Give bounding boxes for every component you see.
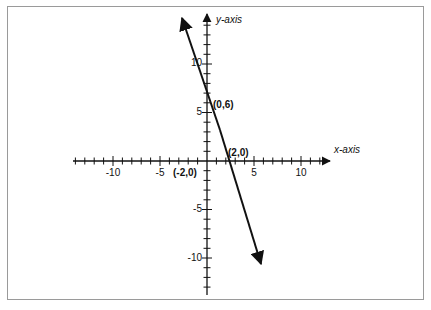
y-axis-title: y-axis bbox=[215, 14, 242, 25]
x-tick-label: -10 bbox=[106, 167, 121, 178]
x-tick-label: -5 bbox=[156, 167, 165, 178]
coordinate-plane: y-axis x-axis -10 -5 5 10 10 5 -5 -10 (0… bbox=[0, 0, 431, 310]
point-label-neg2-0: (-2,0) bbox=[173, 167, 197, 178]
point-label-2-0: (2,0) bbox=[228, 147, 249, 158]
y-tick-label: -10 bbox=[188, 252, 203, 263]
y-tick-label: 10 bbox=[191, 57, 203, 68]
point-label-0-6: (0,6) bbox=[213, 99, 234, 110]
y-tick-label: -5 bbox=[193, 203, 202, 214]
y-tick-label: 5 bbox=[196, 106, 202, 117]
x-tick-label: 10 bbox=[295, 167, 307, 178]
x-tick-label: 5 bbox=[251, 167, 257, 178]
x-axis-title: x-axis bbox=[333, 144, 360, 155]
